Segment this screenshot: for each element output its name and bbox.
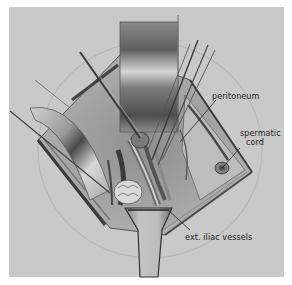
label-ext-iliac-vessels: ext. iliac vessels <box>185 233 252 242</box>
label-spermatic-cord-line2: cord <box>240 138 281 147</box>
label-spermatic-cord: spermatic cord <box>240 129 281 147</box>
center-retractor <box>120 15 178 135</box>
label-spermatic-cord-line1: spermatic <box>240 129 281 138</box>
label-peritoneum: peritoneum <box>212 92 259 101</box>
bottom-retractor <box>125 208 172 277</box>
